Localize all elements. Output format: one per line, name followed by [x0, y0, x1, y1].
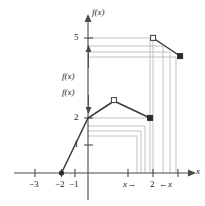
x-approach-left-arrow: → [127, 179, 136, 189]
marker-open-square-upper-left [151, 35, 156, 40]
xtick-label-neg2: −2 [55, 180, 65, 189]
xtick-label-neg3: −3 [29, 180, 39, 189]
axis-ticks [35, 38, 178, 177]
guide-lines [88, 38, 176, 173]
limit-graph-figure: f(x) x 5 2 1 −3 −2 −1 f(x) f(x) x→ 2 ←x [0, 0, 205, 206]
down-arrow-icon [86, 107, 92, 114]
x-approach-right-var: x [168, 179, 172, 189]
x-approach-right-label: ←x [159, 180, 172, 189]
y-axis-arrowhead [85, 14, 92, 22]
x-axis-arrowhead [188, 170, 196, 177]
xtick-label-neg1: −1 [69, 180, 79, 189]
curve-upper [153, 38, 180, 56]
x-approach-right-arrow: ← [159, 179, 168, 189]
marker-filled-dot-left [59, 170, 64, 175]
lower-limit-label: f(x) [62, 88, 75, 97]
x-axis-label: x [196, 167, 200, 176]
x-value-label: 2 [150, 180, 155, 189]
upper-limit-label: f(x) [62, 72, 75, 81]
ytick-label-5: 5 [74, 33, 79, 42]
marker-filled-square-lower-right [148, 115, 153, 120]
ytick-label-1: 1 [74, 140, 79, 149]
curve-lower-right [114, 101, 150, 118]
y-axis-label: f(x) [92, 8, 105, 17]
marker-filled-square-upper-right [178, 54, 183, 59]
marker-open-square-peak [111, 98, 116, 103]
x-approach-left-label: x→ [123, 180, 136, 189]
axes [14, 22, 188, 200]
ytick-label-2: 2 [74, 113, 79, 122]
graph-canvas [0, 0, 205, 206]
